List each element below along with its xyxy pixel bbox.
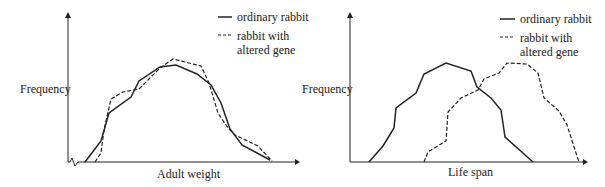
left-legend-altered-1: rabbit with [237, 29, 289, 44]
left-x-axis-label: Adult weight [157, 167, 220, 182]
right-legend-altered-2: altered gene [520, 45, 578, 60]
right-ordinary-line [369, 63, 533, 162]
right-legend-altered-1: rabbit with [520, 31, 572, 46]
left-y-axis-label: Frequency [20, 82, 71, 97]
left-legend-altered-2: altered gene [237, 43, 295, 58]
left-ordinary-line [85, 65, 270, 162]
right-legend-ordinary: ordinary rabbit [520, 12, 592, 27]
left-legend-ordinary: ordinary rabbit [237, 10, 309, 25]
right-y-axis-label: Frequency [302, 82, 353, 97]
right-x-axis-label: Life span [448, 165, 493, 180]
